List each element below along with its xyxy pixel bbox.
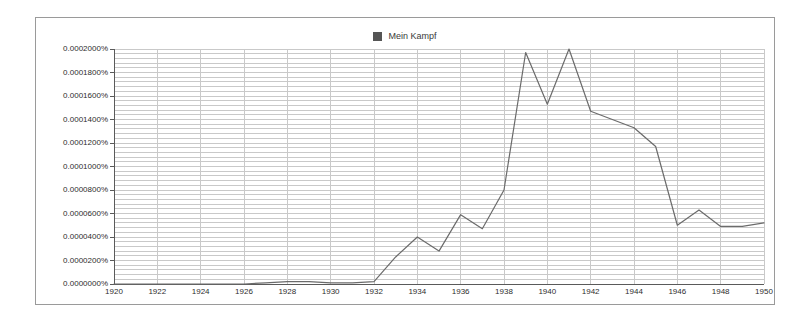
x-axis-tick-label: 1948 <box>701 288 741 296</box>
y-axis-tick-label: 0.0000800% <box>36 186 108 194</box>
y-axis-tick-label: 0.0001400% <box>36 116 108 124</box>
x-axis-tick-label: 1924 <box>181 288 221 296</box>
y-axis-tick-label: 0.0001800% <box>36 69 108 77</box>
y-axis-tick-label: 0.0001000% <box>36 163 108 171</box>
y-axis-tick-label: 0.0002000% <box>36 45 108 53</box>
x-axis-tick-label: 1940 <box>527 288 567 296</box>
x-axis-tick-label: 1920 <box>94 288 134 296</box>
x-axis-tick-label: 1926 <box>224 288 264 296</box>
y-axis-tick-label: 0.0000600% <box>36 210 108 218</box>
plot-svg <box>36 18 776 306</box>
x-axis-tick-label: 1936 <box>441 288 481 296</box>
y-axis-tick-label: 0.0000000% <box>36 280 108 288</box>
y-axis-tick-label: 0.0001200% <box>36 139 108 147</box>
y-axis-tick-label: 0.0001600% <box>36 92 108 100</box>
x-axis-tick-label: 1922 <box>137 288 177 296</box>
plot-area: 0.0002000%0.0001800%0.0001600%0.0001400%… <box>36 18 776 306</box>
x-axis-tick-label: 1950 <box>744 288 784 296</box>
y-axis-tick-label: 0.0000200% <box>36 257 108 265</box>
y-axis-tick-label: 0.0000400% <box>36 233 108 241</box>
gridlines <box>114 49 764 284</box>
x-axis-tick-label: 1946 <box>657 288 697 296</box>
x-axis-tick-label: 1928 <box>267 288 307 296</box>
x-axis-tick-label: 1942 <box>571 288 611 296</box>
chart-frame: Mein Kampf 0.0002000%0.0001800%0.0001600… <box>35 17 775 305</box>
x-axis-tick-label: 1932 <box>354 288 394 296</box>
ngram-chart-screenshot: Mein Kampf 0.0002000%0.0001800%0.0001600… <box>0 0 805 326</box>
x-axis-tick-label: 1934 <box>397 288 437 296</box>
axis-ticks <box>110 49 114 284</box>
x-axis-tick-label: 1938 <box>484 288 524 296</box>
x-axis-tick-label: 1944 <box>614 288 654 296</box>
x-axis-tick-label: 1930 <box>311 288 351 296</box>
